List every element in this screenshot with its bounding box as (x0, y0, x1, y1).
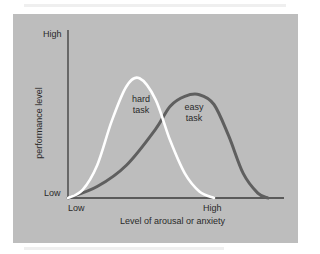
x-tick-low: Low (68, 204, 85, 213)
y-tick-high: High (43, 30, 62, 39)
hard-task-label-line2: task (127, 105, 155, 116)
hard-task-label-line1: hard (127, 94, 155, 105)
y-axis-title: performance level (34, 84, 44, 162)
easy-task-label: easy task (180, 102, 208, 125)
easy-task-label-line2: task (180, 113, 208, 124)
hard-task-label: hard task (127, 94, 155, 117)
easy-task-label-line1: easy (180, 102, 208, 113)
easy-task-curve (68, 94, 268, 198)
y-tick-low: Low (44, 189, 61, 198)
x-tick-high: High (203, 204, 222, 213)
x-axis-title: Level of arousal or anxiety (120, 217, 225, 226)
